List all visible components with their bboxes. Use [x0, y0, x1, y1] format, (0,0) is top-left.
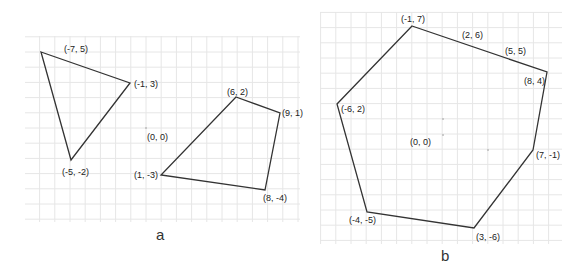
panel-a-grid [25, 36, 300, 222]
vertex-label: (9, 1) [282, 108, 303, 118]
origin-label: (0, 0) [147, 132, 168, 142]
vertex-label: (-4, -5) [349, 215, 376, 225]
vertex-label: (7, -1) [536, 150, 560, 160]
vertex-label: (3, -6) [476, 232, 500, 242]
grid-dot [442, 134, 444, 136]
coordinate-diagram: (-7, 5) (-1, 3) (-5, -2) (6, 2) (9, 1) (… [0, 0, 586, 269]
panel-caption: b [441, 247, 449, 264]
origin-label: (0, 0) [410, 137, 431, 147]
vertex-label: (-5, -2) [62, 167, 89, 177]
panel-b: (-1, 7) (8, 4) (7, -1) (3, -6) (-4, -5) … [337, 14, 560, 264]
vertex-label: (1, -3) [134, 170, 158, 180]
edge-point-label: (2, 6) [462, 30, 483, 40]
origin-dot [145, 127, 147, 129]
vertex-label: (6, 2) [227, 87, 248, 97]
grid-dot [442, 118, 444, 120]
vertex-label: (-7, 5) [64, 44, 88, 54]
panel-caption: a [156, 226, 165, 243]
vertex-label: (-6, 2) [341, 104, 365, 114]
vertex-label: (-1, 3) [134, 79, 158, 89]
edge-point-label: (5, 5) [505, 46, 526, 56]
vertex-label: (8, 4) [524, 76, 545, 86]
vertex-label: (-1, 7) [401, 14, 425, 24]
vertex-label: (8, -4) [263, 193, 287, 203]
grid-dot [487, 149, 489, 151]
